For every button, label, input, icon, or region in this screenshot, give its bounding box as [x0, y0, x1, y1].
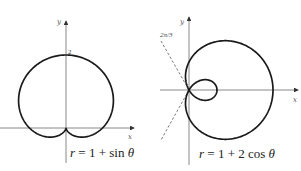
left-x-label: x	[128, 133, 132, 141]
polar-curves-figure: x y 2 r = 1 + sin θ x y 2π/3 r = 1 + 2 c…	[0, 0, 301, 171]
right-x-label: x	[293, 96, 297, 104]
angle-label: 2π/3	[160, 31, 173, 39]
left-equation: r = 1 + sin θ	[70, 145, 135, 160]
right-equation: r = 1 + 2 cos θ	[199, 146, 276, 161]
angle-line-upper	[161, 41, 189, 90]
angle-line-lower	[161, 90, 189, 140]
right-panel: x y 2π/3 r = 1 + 2 cos θ	[160, 17, 298, 165]
left-y-label: y	[56, 18, 62, 26]
left-panel: x y 2 r = 1 + sin θ	[0, 18, 135, 163]
right-y-label: y	[179, 18, 185, 26]
